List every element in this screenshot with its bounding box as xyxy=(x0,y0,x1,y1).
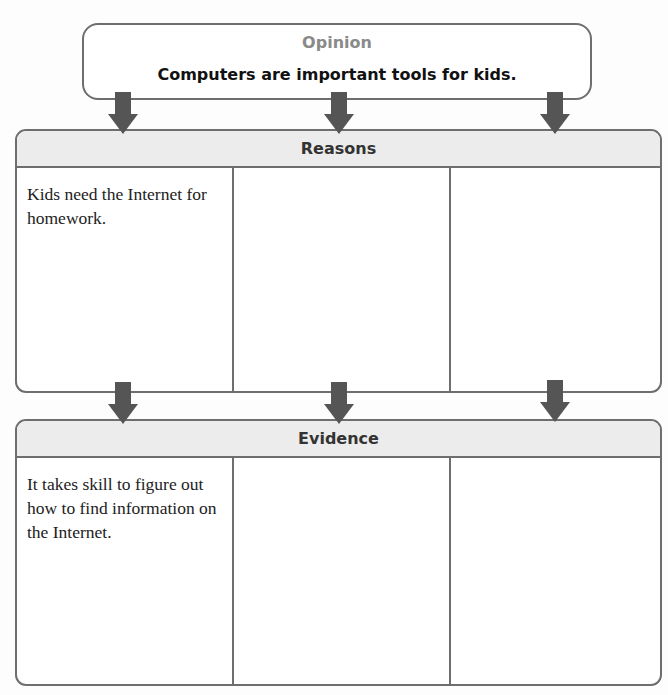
evidence-cell-3[interactable] xyxy=(449,458,660,684)
down-arrow-icon xyxy=(540,380,570,422)
down-arrow-icon xyxy=(108,382,138,424)
opinion-title: Opinion xyxy=(84,33,590,52)
evidence-cell-2[interactable] xyxy=(232,458,449,684)
opinion-box: Opinion Computers are important tools fo… xyxy=(82,23,592,100)
evidence-header: Evidence xyxy=(17,421,660,458)
reason-cell-2[interactable] xyxy=(232,168,449,391)
opinion-statement: Computers are important tools for kids. xyxy=(84,65,590,84)
down-arrow-icon xyxy=(324,382,354,424)
reason-cell-3[interactable] xyxy=(449,168,660,391)
down-arrow-icon xyxy=(108,92,138,134)
reasons-panel: Reasons Kids need the Internet for homew… xyxy=(15,129,662,393)
down-arrow-icon xyxy=(540,92,570,134)
evidence-cell-1[interactable]: It takes skill to figure out how to find… xyxy=(17,458,232,684)
reason-cell-1[interactable]: Kids need the Internet for homework. xyxy=(17,168,232,391)
evidence-panel: Evidence It takes skill to figure out ho… xyxy=(15,419,662,686)
reasons-header: Reasons xyxy=(17,131,660,168)
down-arrow-icon xyxy=(324,92,354,134)
